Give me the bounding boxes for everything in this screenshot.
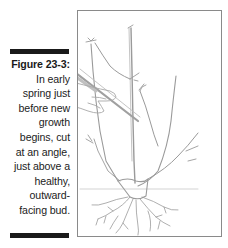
figure-label: Figure 23-3:	[4, 57, 70, 72]
figure-frame	[77, 10, 222, 237]
figure-caption-text: In early spring just before new growth b…	[4, 72, 70, 218]
caption-bottom-rule	[10, 233, 69, 238]
caption-top-rule	[10, 49, 69, 54]
figure-caption: Figure 23-3: In early spring just before…	[4, 57, 70, 218]
rose-bush-pruning-illustration	[78, 11, 221, 236]
right-cane	[140, 91, 158, 146]
roots	[92, 197, 178, 235]
